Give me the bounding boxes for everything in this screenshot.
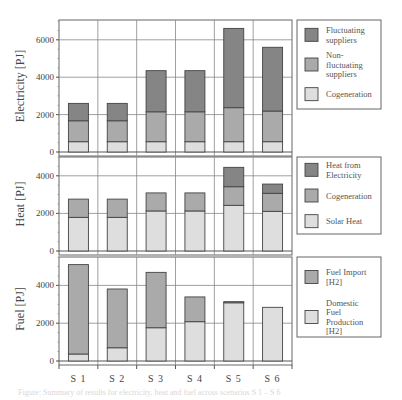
bar-segment — [263, 193, 283, 211]
bar-segment — [185, 71, 205, 112]
bar-segment — [224, 167, 244, 186]
bar-segment — [185, 322, 205, 361]
bar-segment — [146, 272, 166, 327]
bar-segment — [107, 103, 127, 120]
y-axis-label: Fuel [PJ] — [13, 287, 27, 331]
bar-segment — [185, 142, 205, 152]
legend: Heat fromElectricityCogenerationSolar He… — [297, 157, 381, 234]
bar-segment — [146, 193, 166, 211]
bar-segment — [68, 121, 88, 142]
y-tick-label: 0 — [50, 147, 55, 157]
bar-segment — [224, 142, 244, 152]
bar-segment — [107, 121, 127, 142]
bar-segment — [107, 142, 127, 152]
stacked-bar-chart-figure: 0200040006000Electricity [PJ]Fluctuating… — [0, 0, 402, 400]
legend-swatch — [305, 163, 318, 176]
bar-segment — [107, 289, 127, 348]
panel-heat: 020004000Heat [PJ]Heat fromElectricityCo… — [13, 157, 381, 256]
legend-label: Non- — [326, 50, 344, 60]
bar-segment — [146, 71, 166, 112]
bar-segment — [68, 142, 88, 152]
legend-label: [H2] — [326, 326, 342, 336]
legend-label: Domestic — [326, 298, 359, 308]
legend-label: Electricity — [326, 170, 362, 180]
x-tick-label: S 1 — [70, 373, 86, 384]
legend-swatch — [305, 88, 318, 101]
bar-segment — [224, 108, 244, 142]
legend-label: Cogeneration — [326, 89, 373, 99]
legend-swatch — [305, 28, 318, 41]
y-tick-label: 4000 — [36, 72, 55, 82]
legend-label: fluctuating — [326, 60, 364, 70]
bar-segment — [185, 211, 205, 251]
y-axis-label: Heat [PJ] — [13, 182, 27, 227]
figure-caption: Figure: Summary of results for electrici… — [18, 388, 281, 397]
x-tick-label: S 4 — [187, 373, 203, 384]
panel-electricity: 0200040006000Electricity [PJ]Fluctuating… — [13, 20, 381, 157]
bar-segment — [68, 217, 88, 251]
legend-swatch — [305, 271, 318, 284]
bar-segment — [107, 348, 127, 361]
y-tick-label: 4000 — [36, 171, 55, 181]
bar-segment — [146, 328, 166, 361]
x-tick-label: S 2 — [109, 373, 125, 384]
bar-segment — [68, 354, 88, 361]
bar-segment — [263, 184, 283, 193]
legend-label: [H2] — [326, 277, 342, 287]
legend-label: Fuel Import — [326, 267, 367, 277]
legend-label: Solar Heat — [326, 216, 363, 226]
bar-segment — [107, 217, 127, 251]
bar-segment — [224, 302, 244, 303]
legend-label: Cogeneration — [326, 191, 373, 201]
legend: FluctuatingsuppliersNon-fluctuatingsuppl… — [297, 20, 381, 109]
y-tick-label: 2000 — [36, 208, 55, 218]
bar-segment — [146, 112, 166, 142]
bar-segment — [68, 199, 88, 217]
bar-segment — [263, 211, 283, 251]
legend-swatch — [305, 58, 318, 71]
panel-fuel: 020004000Fuel [PJ]Fuel Import[H2]Domesti… — [13, 257, 381, 384]
legend-swatch — [305, 215, 318, 228]
bar-segment — [146, 211, 166, 251]
bar-segment — [224, 303, 244, 361]
x-tick-label: S 6 — [265, 373, 281, 384]
y-tick-label: 4000 — [36, 280, 55, 290]
y-axis-label: Electricity [PJ] — [13, 50, 27, 122]
bar-segment — [224, 28, 244, 107]
bar-segment — [146, 142, 166, 152]
x-tick-label: S 3 — [148, 373, 164, 384]
y-tick-label: 6000 — [36, 35, 55, 45]
legend-swatch — [305, 311, 318, 324]
bar-segment — [224, 205, 244, 251]
bar-segment — [185, 193, 205, 211]
bar-segment — [263, 307, 283, 361]
y-tick-label: 0 — [50, 246, 55, 256]
bar-segment — [263, 111, 283, 142]
legend-label: Heat from — [326, 160, 361, 170]
bar-segment — [263, 142, 283, 152]
legend-label: suppliers — [326, 35, 357, 45]
legend-label: Production — [326, 317, 364, 327]
y-tick-label: 2000 — [36, 318, 55, 328]
legend-label: Fluctuating — [326, 25, 365, 35]
bar-segment — [263, 47, 283, 111]
bar-segment — [107, 199, 127, 217]
y-tick-label: 2000 — [36, 110, 55, 120]
x-tick-label: S 5 — [226, 373, 242, 384]
legend-swatch — [305, 189, 318, 202]
bar-segment — [185, 112, 205, 142]
bar-segment — [68, 103, 88, 120]
legend-label: Fuel — [326, 307, 342, 317]
bar-segment — [68, 265, 88, 354]
y-tick-label: 0 — [50, 356, 55, 366]
bar-segment — [224, 187, 244, 206]
legend-label: suppliers — [326, 69, 357, 79]
bar-segment — [185, 297, 205, 322]
legend: Fuel Import[H2]DomesticFuelProduction[H2… — [297, 257, 381, 337]
